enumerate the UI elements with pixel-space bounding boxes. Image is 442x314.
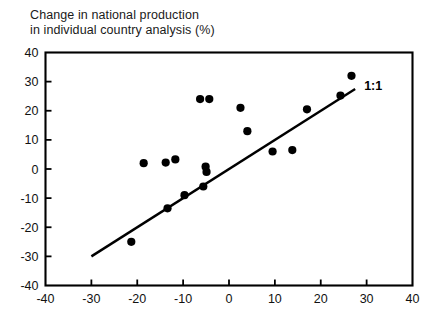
data-point [180,191,188,199]
data-point [196,95,204,103]
data-point [268,147,276,155]
y-tick-label: -10 [20,192,38,206]
data-point [140,159,148,167]
data-point [163,204,171,212]
data-point [336,92,344,100]
data-point [127,238,135,246]
x-axis-ticks: -40-30-20-10010203040 [36,280,419,306]
x-tick-label: 0 [226,292,233,306]
data-point-series [127,72,355,246]
x-tick-label: 40 [406,292,420,306]
data-point [199,182,207,190]
data-point [205,95,213,103]
reference-line-1-to-1 [91,89,355,256]
y-tick-label: 40 [25,46,39,60]
data-point [171,155,179,163]
y-tick-label: 20 [25,104,39,118]
y-tick-label: -30 [20,250,38,264]
chart-figure: Change in national production in individ… [0,0,442,314]
y-tick-label: -20 [20,221,38,235]
data-point [236,104,244,112]
y-tick-label: 30 [25,75,39,89]
data-point [243,127,251,135]
x-tick-label: 20 [314,292,328,306]
x-tick-label: -20 [128,292,146,306]
data-point [288,146,296,154]
x-tick-label: 10 [268,292,282,306]
plot-area: -40-30-20-10010203040 -40-30-20-10010203… [0,0,442,314]
data-point [202,168,210,176]
y-tick-label: 10 [25,133,39,147]
x-tick-label: -40 [36,292,54,306]
data-point [303,105,311,113]
reference-line-label: 1:1 [364,79,382,93]
reference-line [91,89,355,256]
x-tick-label: -30 [82,292,100,306]
y-axis-ticks: -40-30-20-10010203040 [20,46,51,293]
reference-line-label-text: 1:1 [364,79,382,93]
data-point [347,72,355,80]
x-tick-label: 30 [360,292,374,306]
x-tick-label: -10 [174,292,192,306]
data-point [162,158,170,166]
scatter-plot-svg: -40-30-20-10010203040 -40-30-20-10010203… [0,0,442,314]
y-tick-label: 0 [32,163,39,177]
